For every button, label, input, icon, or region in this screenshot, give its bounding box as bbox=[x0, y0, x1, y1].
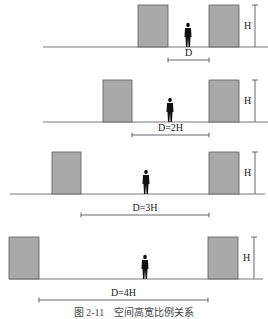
distance-label: D=2H bbox=[158, 123, 183, 133]
distance-label: D bbox=[185, 48, 192, 58]
person-icon bbox=[185, 23, 192, 47]
person-icon bbox=[167, 98, 174, 122]
person-icon bbox=[142, 255, 149, 279]
right-building bbox=[209, 152, 239, 194]
left-building bbox=[52, 152, 81, 194]
left-building bbox=[9, 237, 39, 279]
height-label: H bbox=[243, 253, 250, 263]
height-label: H bbox=[244, 96, 251, 106]
distance-label: D=4H bbox=[111, 288, 136, 298]
height-label: H bbox=[244, 168, 251, 178]
right-building bbox=[209, 80, 239, 122]
right-building bbox=[209, 5, 239, 47]
height-label: H bbox=[244, 21, 251, 31]
distance-label: D=3H bbox=[132, 203, 157, 213]
figure-caption: 图 2-11 空间高宽比例关系 bbox=[0, 307, 268, 319]
left-building bbox=[138, 5, 168, 47]
left-building bbox=[103, 80, 132, 122]
person-icon bbox=[143, 170, 150, 194]
right-building bbox=[208, 237, 238, 279]
